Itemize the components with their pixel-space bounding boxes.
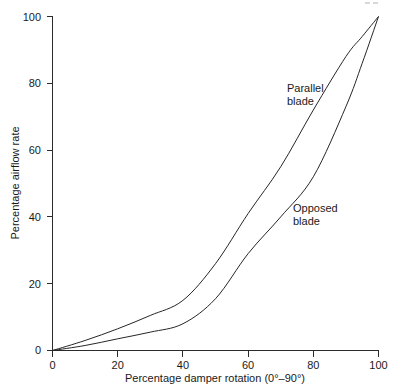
axis-spines [53,17,379,351]
x-tick-label-40: 40 [177,359,189,371]
annotation-parallel-blade: Parallel blade [287,82,324,107]
x-tick-label-100: 100 [369,359,387,371]
y-axis-ticks [47,17,53,351]
chart-svg: 0 20 40 60 80 100 0 20 40 60 80 100 Perc… [0,0,409,386]
y-axis-tick-labels: 0 20 40 60 80 100 [23,11,41,357]
page-corner-artifact [365,2,378,4]
y-tick-label-20: 20 [29,278,41,290]
y-tick-label-80: 80 [29,77,41,89]
x-tick-label-80: 80 [307,359,319,371]
x-axis-title: Percentage damper rotation (0°–90°) [125,372,305,384]
curve-opposed-blade [53,17,379,351]
x-tick-label-0: 0 [49,359,55,371]
y-tick-label-40: 40 [29,211,41,223]
y-axis-title: Percentage airflow rate [9,126,21,239]
y-tick-label-100: 100 [23,11,41,23]
x-axis-ticks [53,351,379,357]
annotation-parallel-line2: blade [287,95,314,107]
x-axis-tick-labels: 0 20 40 60 80 100 [49,359,387,371]
x-tick-label-20: 20 [112,359,124,371]
annotation-opposed-blade: Opposed blade [293,202,338,227]
y-tick-label-0: 0 [35,344,41,356]
y-tick-label-60: 60 [29,144,41,156]
annotation-opposed-line2: blade [293,215,320,227]
curve-parallel-blade [53,17,379,351]
annotation-parallel-line1: Parallel [287,82,324,94]
damper-airflow-chart: 0 20 40 60 80 100 0 20 40 60 80 100 Perc… [0,0,409,386]
x-tick-label-60: 60 [242,359,254,371]
annotation-opposed-line1: Opposed [293,202,338,214]
